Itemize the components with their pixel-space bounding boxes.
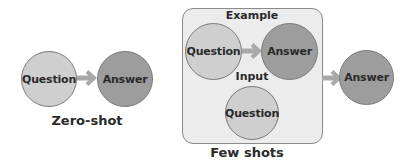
- zero-shot-question-label: Question: [22, 73, 76, 86]
- input-question-label: Question: [225, 107, 279, 120]
- example-answer-node: Answer: [261, 23, 318, 80]
- zero-shot-answer-label: Answer: [103, 73, 148, 86]
- example-question-label: Question: [186, 45, 240, 58]
- output-answer-label: Answer: [344, 71, 389, 84]
- zero-shot-question-node: Question: [21, 51, 77, 107]
- zero-shot-answer-node: Answer: [97, 51, 153, 107]
- example-answer-label: Answer: [267, 45, 312, 58]
- output-answer-node: Answer: [339, 50, 394, 105]
- zero-shot-caption: Zero-shot: [51, 113, 122, 128]
- zero-shot-arrow-icon: [77, 70, 99, 86]
- input-heading: Input: [236, 70, 269, 83]
- few-shots-caption: Few shots: [210, 145, 284, 160]
- example-question-node: Question: [185, 23, 242, 80]
- input-question-node: Question: [225, 86, 279, 140]
- example-heading: Example: [226, 9, 279, 22]
